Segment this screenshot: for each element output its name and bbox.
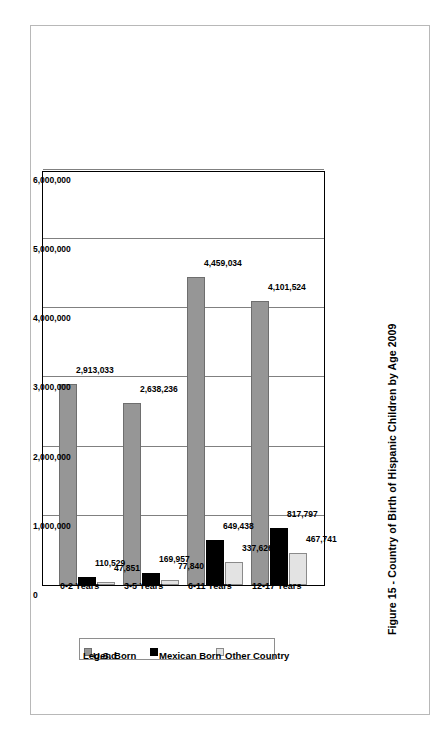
- axis-tick-label: 1,000,000: [33, 521, 71, 531]
- figure-caption: Figure 15 - Country of Birth of Hispanic…: [386, 324, 398, 635]
- bar-u-s-born: [59, 384, 77, 585]
- bar-value-label: 2,638,236: [140, 384, 178, 394]
- bar-value-label: 337,626: [242, 543, 273, 553]
- bar-value-label: 4,459,034: [204, 258, 242, 268]
- axis-tick-label: 2,000,000: [33, 452, 71, 462]
- axis-tick-label: 5,000,000: [33, 244, 71, 254]
- figure-container: Figure 15 - Country of Birth of Hispanic…: [30, 25, 430, 715]
- legend-label-mexican: Mexican Born: [159, 650, 221, 661]
- bar-group: [123, 170, 187, 585]
- bar-group: [251, 170, 315, 585]
- bar-value-label: 467,741: [306, 534, 337, 544]
- bar-u-s-born: [123, 403, 141, 585]
- plot-area: [42, 171, 325, 586]
- bar-mexican-born: [206, 540, 224, 585]
- bar-other-country: [97, 582, 115, 585]
- bar-value-label: 2,913,033: [76, 365, 114, 375]
- bar-mexican-born: [270, 528, 288, 585]
- category-label: 3-5 Years: [124, 581, 163, 591]
- bar-value-label: 649,438: [223, 521, 254, 531]
- bar-value-label: 47,851: [114, 563, 140, 573]
- axis-tick-label: 6,000,000: [33, 175, 71, 185]
- axis-tick-label: 0: [33, 590, 38, 600]
- bar-value-label: 4,101,524: [268, 282, 306, 292]
- legend-swatch-mexican: [150, 648, 158, 656]
- axis-tick-label: 3,000,000: [33, 383, 71, 393]
- category-label: 0-2 Years: [60, 581, 99, 591]
- legend-label-us: U.S. Born: [93, 650, 136, 661]
- legend-label-other: Other Country: [225, 650, 289, 661]
- bar-value-label: 817,797: [287, 509, 318, 519]
- bar-value-label: 77,840: [178, 561, 204, 571]
- category-label: 12-17 Years: [252, 581, 301, 591]
- bar-u-s-born: [187, 277, 205, 585]
- category-label: 6-11 Years: [188, 581, 232, 591]
- axis-tick-label: 4,000,000: [33, 313, 71, 323]
- bar-other-country: [161, 580, 179, 585]
